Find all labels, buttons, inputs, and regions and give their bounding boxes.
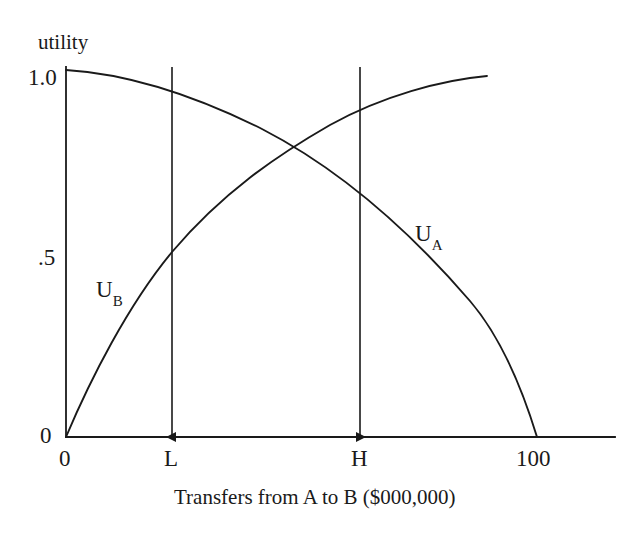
- curve-label-UB-base: U: [96, 277, 113, 302]
- x-tick-label-100: 100: [516, 447, 551, 470]
- y-tick-label-0.5: .5: [38, 246, 55, 269]
- curve-UB: [66, 76, 487, 437]
- x-tick-label-0: 0: [59, 447, 71, 470]
- x-tick-label-H: H: [351, 447, 368, 470]
- curve-UA: [66, 70, 537, 437]
- y-tick-label-0: 0: [40, 424, 52, 447]
- y-axis-title: utility: [38, 32, 88, 53]
- curve-label-UB-subscript: B: [113, 293, 123, 309]
- x-tick-label-L: L: [164, 447, 178, 470]
- x-axis-title: Transfers from A to B ($000,000): [174, 487, 456, 508]
- curve-label-UB: UB: [96, 278, 123, 306]
- y-tick-label-1.0: 1.0: [28, 66, 57, 89]
- curve-label-UA-subscript: A: [432, 237, 443, 253]
- chart-figure: utility 1.0 .5 0 0 L H 100 UB UA Transfe…: [0, 0, 640, 534]
- curve-label-UA: UA: [415, 222, 442, 250]
- curve-label-UA-base: U: [415, 221, 432, 246]
